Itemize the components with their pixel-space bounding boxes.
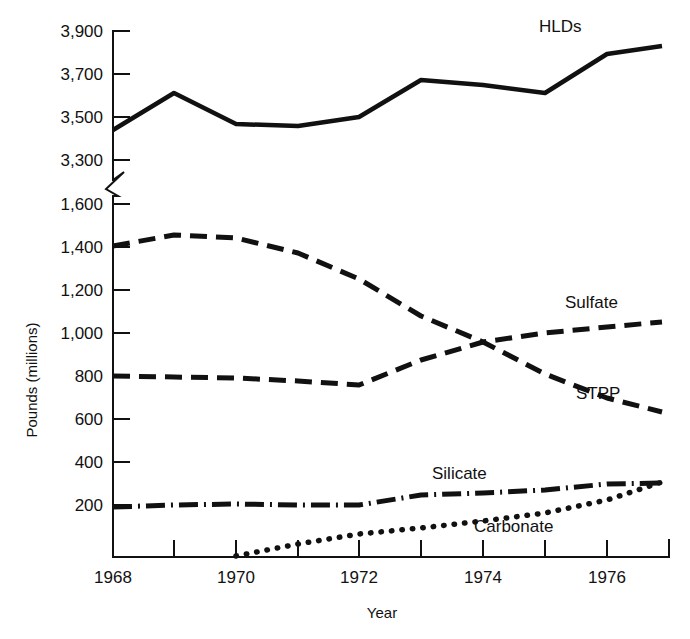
series-label-hlds: HLDs xyxy=(539,17,582,36)
x-tick-label-1968: 1968 xyxy=(94,568,132,587)
series-label-silicate: Silicate xyxy=(432,464,487,483)
axis-break-icon xyxy=(106,172,124,196)
series-label-carbonate: Carbonate xyxy=(474,517,553,536)
x-tick-label-1976: 1976 xyxy=(588,568,626,587)
y-tick-label-3900: 3,900 xyxy=(60,22,103,41)
chart-canvas: 3,900 3,700 3,500 3,300 1,600 1,400 1,20… xyxy=(0,0,690,639)
x-tick-label-1974: 1974 xyxy=(464,568,502,587)
series-line-hlds xyxy=(113,46,662,130)
line-chart: 3,900 3,700 3,500 3,300 1,600 1,400 1,20… xyxy=(0,0,690,639)
y-ticks-upper xyxy=(113,31,130,160)
x-tick-label-1970: 1970 xyxy=(217,568,255,587)
y-tick-label-400: 400 xyxy=(75,453,103,472)
series-label-stpp: STPP xyxy=(576,384,620,403)
y-tick-label-1200: 1,200 xyxy=(60,281,103,300)
x-ticks xyxy=(113,540,607,557)
y-tick-label-3700: 3,700 xyxy=(60,65,103,84)
y-tick-label-1400: 1,400 xyxy=(60,238,103,257)
x-axis-title: Year xyxy=(367,604,397,621)
series-line-sulfate xyxy=(113,322,662,385)
y-tick-label-1000: 1,000 xyxy=(60,324,103,343)
series-label-sulfate: Sulfate xyxy=(565,293,618,312)
y-tick-label-600: 600 xyxy=(75,410,103,429)
y-tick-label-3300: 3,300 xyxy=(60,151,103,170)
x-tick-label-1972: 1972 xyxy=(340,568,378,587)
y-tick-label-800: 800 xyxy=(75,367,103,386)
y-tick-label-3500: 3,500 xyxy=(60,108,103,127)
y-ticks-lower xyxy=(113,204,130,505)
y-axis-title: Pounds (millions) xyxy=(23,322,40,437)
y-tick-label-200: 200 xyxy=(75,496,103,515)
y-tick-label-1600: 1,600 xyxy=(60,195,103,214)
